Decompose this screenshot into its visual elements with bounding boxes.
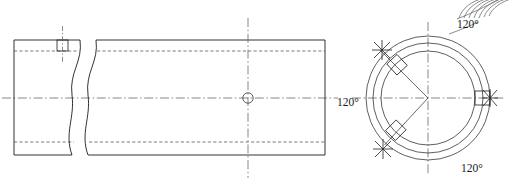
slot-upper-left-rect (386, 120, 407, 141)
angle-label-bottom: 120° (461, 162, 483, 174)
star-marker-right (482, 89, 498, 107)
break-line-second (85, 40, 96, 155)
pipe-side-view (2, 18, 338, 178)
break-line-first (69, 40, 80, 155)
knurl-hatch-arcs (457, 0, 514, 19)
slot-upper-left-box-group (386, 120, 407, 141)
top-slot-group (57, 26, 68, 63)
angle-label-left: 120° (337, 96, 359, 108)
radial-line-lower-left (385, 98, 429, 145)
slot-upper-left (372, 40, 406, 140)
pipe-end-view: 120° 120° 120° (337, 0, 514, 174)
drawing-svg-root: 120° 120° 120° (0, 0, 519, 186)
star-marker-lower-left (373, 139, 393, 159)
star-marker-upper-left (372, 40, 392, 60)
technical-drawing-canvas: 120° 120° 120° (0, 0, 519, 186)
angle-label-top: 120° (457, 18, 479, 30)
